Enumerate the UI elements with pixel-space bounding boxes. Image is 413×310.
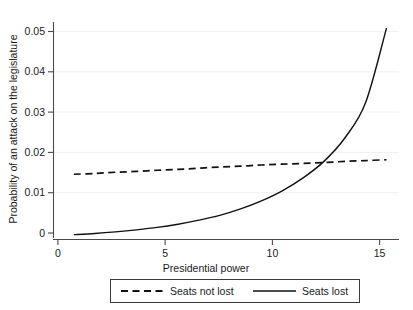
x-axis-title: Presidential power (163, 262, 250, 274)
y-tick-label-0: 0 (39, 227, 45, 239)
y-tick-label-0.03: 0.03 (25, 106, 46, 118)
chart-figure: 0.05 0.04 0.03 0.02 0.01 0 0 5 10 15 Pre… (0, 0, 413, 310)
plot-background (53, 18, 399, 240)
x-tick-label-10: 10 (267, 247, 279, 259)
y-axis-ticks (48, 32, 53, 234)
legend: Seats not lost Seats lost (111, 280, 360, 303)
legend-label-seats-lost: Seats lost (302, 285, 348, 297)
x-tick-label-15: 15 (374, 247, 386, 259)
y-tick-label-0.01: 0.01 (25, 186, 46, 198)
y-tick-label-0.05: 0.05 (25, 25, 46, 37)
legend-label-seats-not-lost: Seats not lost (170, 285, 234, 297)
y-tick-label-0.04: 0.04 (25, 65, 46, 77)
x-tick-label-5: 5 (162, 247, 168, 259)
y-tick-label-0.02: 0.02 (25, 146, 46, 158)
chart-canvas: 0.05 0.04 0.03 0.02 0.01 0 0 5 10 15 Pre… (0, 0, 413, 310)
y-axis-title: Probability of an attack on the legislat… (7, 34, 19, 223)
x-tick-label-0: 0 (55, 247, 61, 259)
x-axis-ticks (58, 240, 380, 245)
